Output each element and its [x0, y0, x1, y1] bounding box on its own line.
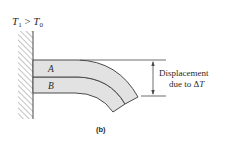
bimetallic-strip-diagram: T1 > T0 A B Displacement due to ΔT (b) [0, 0, 230, 156]
displacement-label-line1: Displacement [159, 68, 209, 78]
fixed-wall [18, 31, 33, 119]
figure-caption: (b) [96, 125, 106, 134]
displacement-arrow [151, 61, 154, 95]
displacement-label-line2: due to ΔT [169, 79, 205, 89]
layer-b-label: B [48, 81, 54, 91]
temperature-condition-label: T1 > T0 [12, 15, 43, 29]
layer-a-label: A [47, 64, 54, 74]
